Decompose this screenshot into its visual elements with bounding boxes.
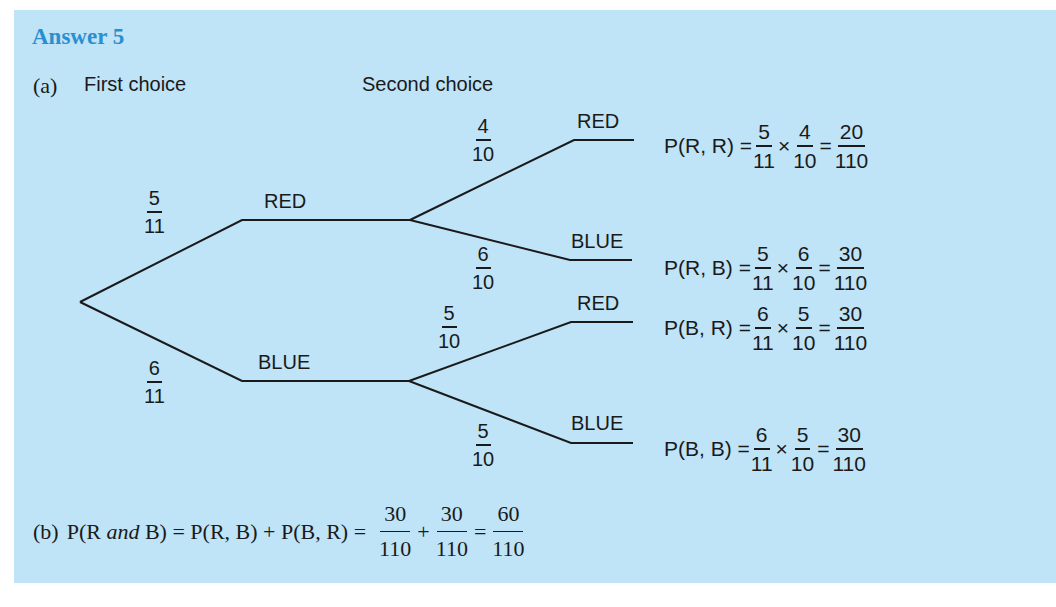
outcome-blue-blue: BLUE — [571, 412, 623, 435]
prob-first-red: 511 — [144, 188, 165, 236]
branch-blue — [80, 302, 410, 381]
outcome-first-blue: BLUE — [258, 351, 310, 374]
branch-red-red — [410, 140, 634, 220]
outcome-red-red: RED — [577, 110, 619, 133]
part-b-equation: (b) P(R and B) = P(R, B) + P(B, R) = 301… — [33, 503, 528, 560]
result-br: P(B, R) = 611 × 510 = 30110 — [664, 303, 868, 353]
prob-blue-red: 510 — [438, 303, 460, 351]
branch-red — [80, 220, 410, 302]
prob-blue-blue: 510 — [472, 421, 494, 469]
result-rr: P(R, R) = 511 × 410 = 20110 — [664, 121, 869, 171]
outcome-first-red: RED — [264, 190, 306, 213]
prob-red-blue: 610 — [472, 244, 494, 292]
outcome-blue-red: RED — [577, 292, 619, 315]
outcome-red-blue: BLUE — [571, 230, 623, 253]
result-rb: P(R, B) = 511 × 610 = 30110 — [664, 243, 868, 293]
prob-red-red: 410 — [472, 116, 494, 164]
result-bb: P(B, B) = 611 × 510 = 30110 — [664, 424, 867, 474]
prob-first-blue: 611 — [144, 358, 165, 406]
part-b-label: (b) — [33, 519, 59, 545]
